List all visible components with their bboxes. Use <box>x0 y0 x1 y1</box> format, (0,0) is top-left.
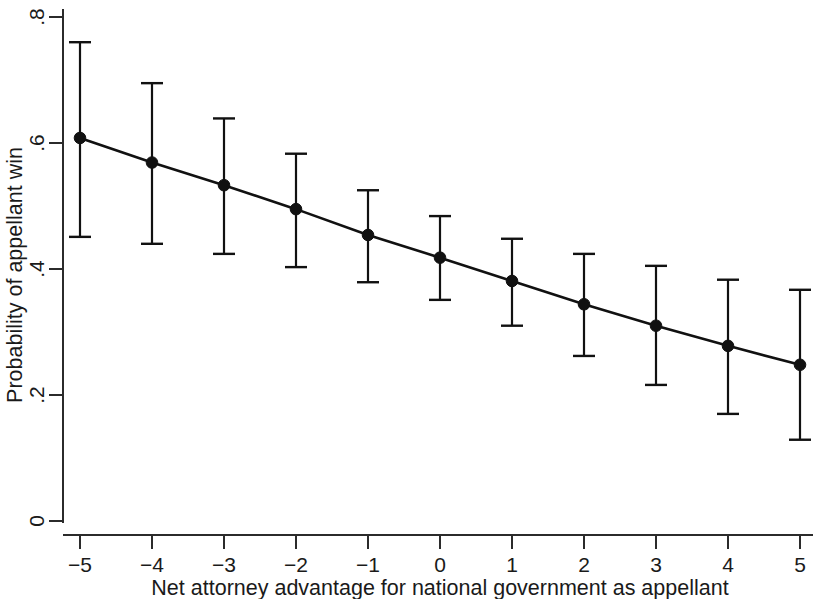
x-axis-title: Net attorney advantage for national gove… <box>151 576 728 599</box>
data-point-marker <box>434 252 446 264</box>
x-tick-label--4: −4 <box>140 553 164 576</box>
data-point-marker <box>722 340 734 352</box>
x-tick-label-4: 4 <box>722 553 734 576</box>
x-tick-label--2: −2 <box>284 553 308 576</box>
data-point-marker <box>362 229 374 241</box>
y-tick-label-0: 0 <box>25 515 48 527</box>
y-tick-label-0.6: .6 <box>25 134 48 152</box>
data-point-marker <box>146 157 158 169</box>
y-tick-label-0.2: .2 <box>25 386 48 404</box>
x-tick-label-2: 2 <box>578 553 590 576</box>
data-point-marker <box>794 359 806 371</box>
x-axis: −5 −4 −3 −2 −1 0 1 2 3 4 5 Net attorney … <box>63 535 813 599</box>
chart-figure: .8 .6 .4 .2 0 Probability of appellant w… <box>0 0 815 599</box>
x-tick-label--3: −3 <box>212 553 236 576</box>
x-tick-label-0: 0 <box>434 553 446 576</box>
data-point-markers-group <box>74 132 806 370</box>
data-point-marker <box>506 275 518 287</box>
data-point-marker <box>74 132 86 144</box>
data-point-marker <box>650 320 662 332</box>
data-point-marker <box>290 203 302 215</box>
x-tick-label-3: 3 <box>650 553 662 576</box>
y-axis-title: Probability of appellant win <box>3 147 27 403</box>
x-tick-label-1: 1 <box>506 553 518 576</box>
data-point-marker <box>578 298 590 310</box>
probability-line-chart: .8 .6 .4 .2 0 Probability of appellant w… <box>0 0 815 599</box>
y-axis: .8 .6 .4 .2 0 Probability of appellant w… <box>3 8 63 527</box>
x-tick-label-5: 5 <box>794 553 806 576</box>
y-tick-label-0.4: .4 <box>25 260 48 278</box>
x-tick-label--5: −5 <box>68 553 92 576</box>
data-point-marker <box>218 179 230 191</box>
x-tick-label--1: −1 <box>356 553 380 576</box>
error-bars-group <box>69 42 811 440</box>
y-tick-label-0.8: .8 <box>25 8 48 26</box>
